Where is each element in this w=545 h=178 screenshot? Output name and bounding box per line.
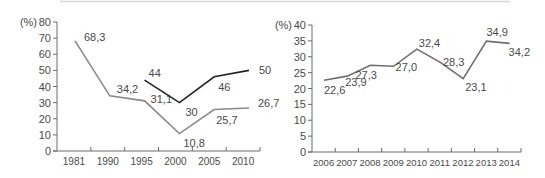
x-tick-label: 2013 [476, 157, 497, 168]
y-tick-label: 0 [45, 145, 51, 157]
data-label: 25,7 [216, 114, 237, 126]
x-tick-label: 2008 [359, 157, 380, 168]
x-tick-label: 1981 [63, 156, 86, 167]
y-axis-unit-label: (%) [275, 19, 292, 31]
data-label: 44 [149, 67, 161, 79]
x-tick-label: 2010 [232, 156, 255, 167]
data-label: 26,7 [258, 97, 279, 109]
y-tick-label: 15 [294, 98, 306, 110]
data-label: 31,1 [151, 93, 172, 105]
chart-figure: 01020304050607080(%)19811990199520002005… [0, 0, 545, 178]
data-label: 28,3 [443, 56, 464, 68]
x-tick-label: 2005 [198, 156, 221, 167]
data-label: 50 [259, 64, 271, 76]
y-tick-label: 35 [294, 35, 306, 47]
x-tick-label: 2000 [164, 156, 187, 167]
x-tick-label: 2007 [336, 157, 357, 168]
x-tick-label: 2009 [383, 157, 404, 168]
y-tick-label: 20 [294, 83, 306, 95]
y-tick-label: 0 [300, 146, 306, 158]
y-tick-label: 40 [294, 19, 306, 31]
x-tick-label: 2012 [452, 157, 473, 168]
data-label: 34,2 [509, 46, 530, 58]
data-label: 30 [185, 106, 197, 118]
data-label: 34,2 [117, 83, 138, 95]
data-label: 32,4 [419, 37, 440, 49]
y-tick-label: 20 [39, 113, 51, 125]
data-label: 27,0 [396, 61, 417, 73]
right-line-chart: 0510152025303540(%)200620072008200920102… [275, 19, 530, 168]
left-line-chart: 01020304050607080(%)19811990199520002005… [20, 16, 280, 167]
y-axis-unit-label: (%) [20, 16, 37, 28]
x-tick-label: 1995 [130, 156, 153, 167]
y-tick-label: 10 [39, 129, 51, 141]
y-tick-label: 30 [294, 51, 306, 63]
y-tick-label: 10 [294, 114, 306, 126]
y-tick-label: 60 [39, 48, 51, 60]
x-tick-label: 2006 [313, 157, 334, 168]
x-tick-label: 1990 [97, 156, 120, 167]
data-label: 10,8 [183, 137, 204, 149]
data-label: 34,9 [486, 26, 507, 38]
data-label: 46 [218, 81, 230, 93]
chart-canvas: 01020304050607080(%)19811990199520002005… [0, 0, 545, 178]
data-label: 22,6 [324, 84, 345, 96]
y-tick-label: 40 [39, 81, 51, 93]
data-label: 27,3 [355, 69, 376, 81]
x-tick-label: 2010 [406, 157, 427, 168]
data-label: 68,3 [84, 31, 105, 43]
x-tick-label: 2011 [430, 157, 450, 168]
y-tick-label: 70 [39, 32, 51, 44]
y-tick-label: 80 [39, 16, 51, 28]
data-label: 23,1 [465, 81, 486, 93]
y-tick-label: 5 [300, 130, 306, 142]
y-tick-label: 25 [294, 67, 306, 79]
y-tick-label: 50 [39, 64, 51, 76]
y-tick-label: 30 [39, 97, 51, 109]
x-tick-label: 2014 [499, 157, 520, 168]
